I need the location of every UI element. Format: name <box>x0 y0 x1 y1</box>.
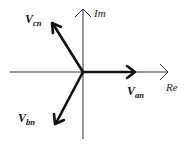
real-axis-label: Re <box>165 81 178 93</box>
phasor-van <box>83 66 135 78</box>
phasor-vcn <box>52 23 83 72</box>
phasor-vbn <box>54 72 83 124</box>
phasor-vcn-label: Vcn <box>25 12 42 28</box>
phasor-vbn-label: Vbn <box>18 111 35 127</box>
imaginary-axis-label: Im <box>93 7 106 19</box>
phasor-diagram: Im Re Vcn Van Vbn <box>0 0 186 148</box>
phasor-van-label: Van <box>127 84 144 100</box>
